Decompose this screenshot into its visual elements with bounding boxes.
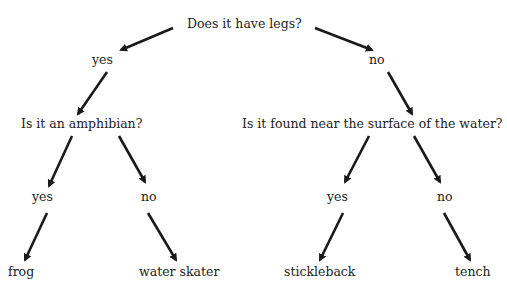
leaf-tench: tench	[455, 265, 491, 279]
arrow-root-yes	[121, 28, 173, 50]
root-question: Does it have legs?	[187, 17, 302, 31]
arrow-root-no	[315, 28, 372, 50]
arrow-amphibian-no	[119, 136, 145, 182]
decision-tree-diagram: Does it have legs? yes no Is it an amphi…	[0, 0, 507, 285]
arrow-yes-stickleback	[320, 213, 343, 260]
arrow-yes-frog	[25, 213, 47, 260]
answer-yes-surface: yes	[327, 190, 348, 204]
answer-no-surface: no	[437, 190, 453, 204]
arrow-no-tench	[444, 213, 470, 260]
arrow-surface-yes	[345, 136, 369, 182]
question-amphibian: Is it an amphibian?	[21, 117, 142, 131]
leaf-stickleback: stickleback	[284, 265, 355, 279]
arrow-yes-amphibian	[78, 72, 107, 114]
answer-yes-legs: yes	[92, 53, 113, 67]
arrow-no-surface	[388, 72, 412, 114]
answer-no-amphibian: no	[141, 190, 157, 204]
arrow-amphibian-yes	[49, 136, 72, 186]
leaf-frog: frog	[8, 265, 34, 279]
answer-yes-amphibian: yes	[32, 190, 53, 204]
leaf-water-skater: water skater	[139, 265, 219, 279]
answer-no-legs: no	[369, 53, 385, 67]
arrow-no-waterskater	[148, 213, 176, 260]
question-surface: Is it found near the surface of the wate…	[242, 117, 503, 131]
arrows-layer	[0, 0, 507, 285]
arrow-surface-no	[414, 136, 440, 182]
